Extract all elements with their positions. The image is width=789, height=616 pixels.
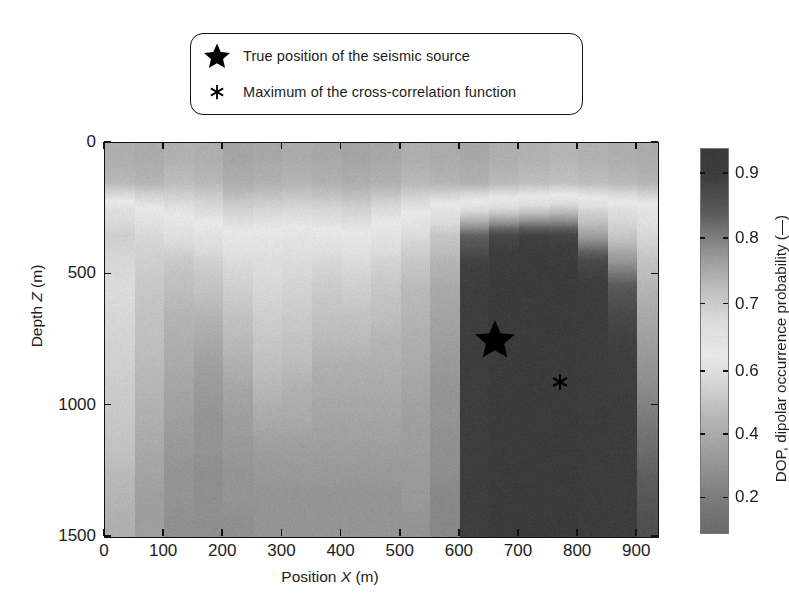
y-tick: [104, 141, 111, 143]
legend-box: True position of the seismic source Maxi…: [190, 33, 583, 115]
x-tick: [517, 142, 519, 149]
colorbar-tick: [700, 237, 705, 239]
y-tick: [104, 404, 111, 406]
colorbar-tick-label: 0.8: [735, 228, 759, 248]
x-tick-label: 900: [622, 541, 650, 561]
x-tick-label: 700: [504, 541, 532, 561]
y-tick-label: 0: [20, 132, 96, 152]
y-tick: [651, 535, 658, 537]
x-tick: [162, 529, 164, 536]
legend-item-true-source: True position of the seismic source: [191, 39, 582, 73]
y-tick: [651, 273, 658, 275]
x-tick: [635, 529, 637, 536]
x-axis-title: Position X (m): [0, 568, 660, 586]
x-tick: [221, 142, 223, 149]
heatmap-image: [105, 143, 658, 537]
colorbar-tick-label: 0.4: [735, 424, 759, 444]
x-tick: [340, 142, 342, 149]
x-tick: [162, 142, 164, 149]
colorbar-gradient: [701, 149, 728, 533]
x-tick: [576, 529, 578, 536]
star-marker-icon: [191, 42, 243, 71]
x-tick-label: 100: [149, 541, 177, 561]
asterisk-marker-icon: [191, 83, 243, 101]
x-tick: [517, 529, 519, 536]
x-tick: [458, 142, 460, 149]
x-tick: [340, 529, 342, 536]
colorbar-tick: [723, 172, 728, 174]
legend-label-xcorr-max: Maximum of the cross-correlation functio…: [243, 84, 516, 100]
x-tick-label: 800: [563, 541, 591, 561]
y-tick-label: 1500: [20, 526, 96, 546]
colorbar-tick: [700, 172, 705, 174]
colorbar-tick-label: 0.9: [735, 163, 759, 183]
x-tick: [635, 142, 637, 149]
y-tick: [651, 404, 658, 406]
colorbar-tick: [723, 237, 728, 239]
colorbar-tick-label: 0.7: [735, 294, 759, 314]
colorbar-tick-label: 0.2: [735, 487, 759, 507]
x-tick-label: 400: [326, 541, 354, 561]
colorbar-tick: [700, 303, 705, 305]
colorbar-tick: [723, 370, 728, 372]
y-axis-title: Depth Z (m): [28, 206, 46, 406]
colorbar: [700, 148, 729, 534]
x-tick: [103, 142, 105, 149]
y-tick: [651, 141, 658, 143]
x-tick: [399, 529, 401, 536]
colorbar-tick: [700, 370, 705, 372]
colorbar-tick-label: 0.6: [735, 361, 759, 381]
x-tick: [576, 142, 578, 149]
y-tick: [104, 535, 111, 537]
colorbar-tick: [700, 497, 705, 499]
colorbar-title: DOP, dipolar occurrence probability (—): [772, 139, 789, 559]
legend-label-true-source: True position of the seismic source: [243, 48, 470, 64]
y-tick: [104, 273, 111, 275]
colorbar-tick: [700, 433, 705, 435]
x-tick-label: 200: [208, 541, 236, 561]
x-tick-label: 500: [386, 541, 414, 561]
x-tick: [399, 142, 401, 149]
x-tick: [221, 529, 223, 536]
legend-item-xcorr-max: Maximum of the cross-correlation functio…: [191, 75, 582, 109]
colorbar-tick: [723, 497, 728, 499]
colorbar-tick: [723, 303, 728, 305]
heatmap-plot-area: [104, 142, 659, 538]
x-tick: [458, 529, 460, 536]
x-tick: [281, 142, 283, 149]
x-tick-label: 300: [267, 541, 295, 561]
x-tick-label: 0: [99, 541, 108, 561]
x-tick-label: 600: [445, 541, 473, 561]
x-tick: [281, 529, 283, 536]
colorbar-tick: [723, 433, 728, 435]
